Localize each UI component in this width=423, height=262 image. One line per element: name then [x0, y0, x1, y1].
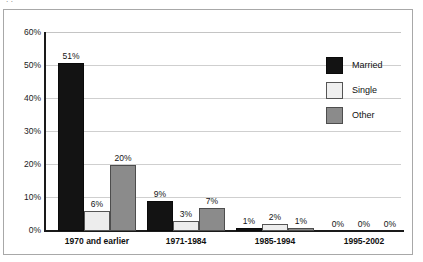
bar-married[interactable]	[147, 201, 173, 231]
caption-fragment-top: . .	[6, 0, 306, 4]
chart-figure-frame: 60%50%40%30%20%10%0% 51%6%20%9%3%7%1%2%1…	[3, 9, 413, 255]
legend-item-other[interactable]: Other	[326, 104, 406, 126]
bar-slot: 1%	[288, 32, 314, 231]
y-axis-tick-labels: 60%50%40%30%20%10%0%	[4, 32, 41, 231]
bar-value-label: 51%	[62, 52, 79, 61]
legend-label: Single	[352, 85, 377, 95]
bar-slot: 7%	[199, 32, 225, 231]
bar-slot: 9%	[147, 32, 173, 231]
bar-value-label: 3%	[180, 210, 192, 219]
x-axis-category-label: 1995-2002	[325, 236, 403, 246]
legend-swatch-married	[326, 57, 343, 74]
legend-label: Other	[352, 110, 375, 120]
x-axis-category-label: 1985-1994	[236, 236, 314, 246]
bar-slot: 20%	[110, 32, 136, 231]
bar-slot: 6%	[84, 32, 110, 231]
x-axis-category-label: 1971-1984	[147, 236, 225, 246]
bar-value-label: 9%	[154, 190, 166, 199]
bar-slot: 3%	[173, 32, 199, 231]
y-axis-tick-label: 40%	[7, 94, 41, 103]
legend-label: Married	[352, 60, 383, 70]
legend-item-single[interactable]: Single	[326, 79, 406, 101]
chart-legend: MarriedSingleOther	[326, 54, 406, 129]
bar-value-label: 0%	[358, 220, 370, 229]
legend-swatch-single	[326, 82, 343, 99]
bar-single[interactable]	[173, 221, 199, 231]
bar-group: 51%6%20%	[58, 32, 136, 231]
bar-value-label: 1%	[243, 217, 255, 226]
y-axis-tick-label: 0%	[7, 226, 41, 235]
bar-married[interactable]	[236, 228, 262, 231]
legend-swatch-other	[326, 107, 343, 124]
bar-married[interactable]	[58, 63, 84, 231]
bar-value-label: 6%	[91, 200, 103, 209]
bar-group: 9%3%7%	[147, 32, 225, 231]
bar-other[interactable]	[288, 228, 314, 231]
bar-slot: 51%	[58, 32, 84, 231]
bar-value-label: 7%	[206, 197, 218, 206]
y-axis-tick-label: 20%	[7, 160, 41, 169]
y-axis-tick-label: 30%	[7, 127, 41, 136]
y-axis-tick-label: 50%	[7, 61, 41, 70]
bar-group: 1%2%1%	[236, 32, 314, 231]
bar-other[interactable]	[110, 165, 136, 231]
bar-value-label: 0%	[384, 220, 396, 229]
bar-value-label: 2%	[269, 213, 281, 222]
bar-other[interactable]	[199, 208, 225, 231]
bar-slot: 1%	[236, 32, 262, 231]
bar-single[interactable]	[84, 211, 110, 231]
y-axis-tick-label: 10%	[7, 193, 41, 202]
bar-value-label: 0%	[332, 220, 344, 229]
bar-single[interactable]	[262, 224, 288, 231]
legend-item-married[interactable]: Married	[326, 54, 406, 76]
bar-slot: 2%	[262, 32, 288, 231]
x-axis-category-label: 1970 and earlier	[58, 236, 136, 246]
bar-value-label: 1%	[295, 217, 307, 226]
y-axis-tick-label: 60%	[7, 28, 41, 37]
bar-value-label: 20%	[114, 154, 131, 163]
x-axis-category-labels: 1970 and earlier1971-19841985-19941995-2…	[44, 236, 404, 250]
